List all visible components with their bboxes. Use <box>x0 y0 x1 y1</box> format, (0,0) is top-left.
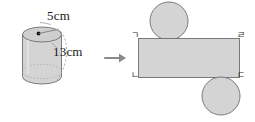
geometry-figure: 5cm 13cm ㄱ ㄹ ㄴ ㄷ <box>0 0 255 122</box>
bottom-base-circle <box>202 77 240 115</box>
lateral-surface-rectangle <box>139 39 240 78</box>
transform-arrow-head <box>119 54 126 63</box>
top-base-circle <box>150 2 188 40</box>
cylinder-top-face <box>23 27 62 42</box>
net-corner-label-bottom-left: ㄴ <box>131 71 139 80</box>
figure-svg-canvas <box>0 0 255 122</box>
cylinder-net-group <box>139 2 241 115</box>
radius-measurement-label: 5cm <box>47 9 70 22</box>
net-corner-label-bottom-right: ㄷ <box>237 71 245 80</box>
height-measurement-label: 13cm <box>53 45 83 58</box>
net-corner-label-top-right: ㄹ <box>237 31 245 40</box>
transform-arrow-group <box>105 54 126 63</box>
net-corner-label-top-left: ㄱ <box>131 31 139 40</box>
